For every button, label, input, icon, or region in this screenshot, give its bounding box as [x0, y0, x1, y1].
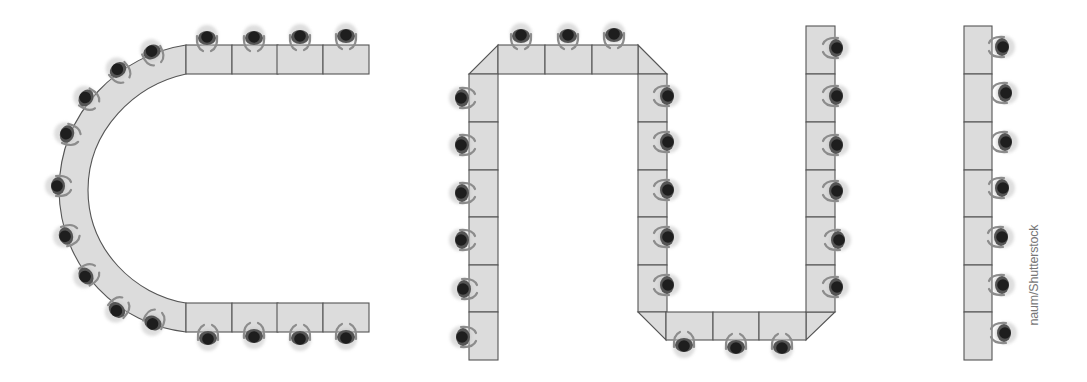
table-cell	[469, 122, 498, 170]
serpentine-left-column	[469, 74, 498, 360]
table-cell	[592, 45, 638, 74]
table-cell	[545, 45, 592, 74]
table-cell	[232, 45, 278, 74]
table-cell	[469, 312, 498, 360]
image-credit: naum/Shutterstock	[1027, 225, 1041, 326]
table-cell	[323, 303, 369, 332]
serpentine-bottom-left-corner	[638, 312, 666, 340]
table-cell	[666, 312, 713, 340]
seated-person-icon	[989, 274, 1015, 296]
table-cell	[469, 170, 498, 217]
table-cell	[498, 45, 545, 74]
table-cell	[277, 303, 323, 332]
horseshoe-straight-tables	[186, 45, 369, 332]
table-cell	[964, 265, 992, 312]
table-cell	[964, 312, 992, 360]
seated-person-icon	[991, 322, 1017, 344]
table-cell	[186, 45, 232, 74]
seated-person-icon	[992, 131, 1018, 153]
table-cell	[964, 122, 992, 170]
table-cell	[964, 170, 992, 217]
table-cell	[964, 74, 992, 122]
table-cell	[964, 26, 992, 74]
straight-row-tables	[964, 26, 992, 360]
table-cell	[759, 312, 806, 340]
serpentine-top-left-corner	[469, 45, 498, 74]
seated-person-icon	[603, 22, 625, 48]
table-cell	[186, 303, 232, 332]
serpentine-top-right-corner	[638, 45, 667, 74]
straight-row-layout	[964, 26, 1018, 360]
table-cell	[277, 45, 323, 74]
table-cell	[713, 312, 759, 340]
seated-person-icon	[989, 177, 1015, 199]
seating-diagram	[0, 0, 1087, 382]
table-cell	[323, 45, 369, 74]
horseshoe-layout	[45, 23, 369, 351]
table-cell	[469, 74, 498, 122]
table-cell	[469, 217, 498, 265]
seated-person-icon	[989, 36, 1015, 58]
serpentine-bottom-right-corner	[806, 312, 835, 340]
table-cell	[469, 265, 498, 312]
serpentine-layout	[449, 22, 851, 360]
serpentine-right-column	[806, 26, 835, 312]
seated-person-icon	[992, 82, 1018, 104]
